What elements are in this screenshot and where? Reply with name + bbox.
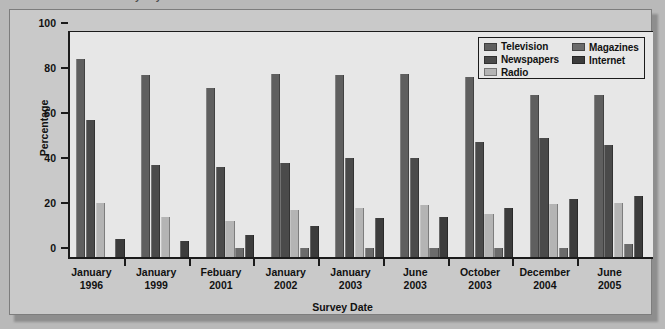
x-axis-tick-label: Febuary2001 (189, 266, 254, 291)
legend-column-left: TelevisionNewspapersRadio (484, 41, 572, 78)
bar-television-2 (206, 88, 215, 257)
legend-swatch-television (484, 43, 497, 51)
bar-television-6 (465, 77, 474, 257)
bar-newspapers-7 (539, 138, 548, 257)
x-axis-tick-label-line: January (253, 266, 318, 279)
bar-radio-4 (355, 208, 364, 258)
legend-swatch-radio (484, 68, 497, 76)
legend-label: Radio (501, 67, 528, 78)
x-axis-tick-label-line: 2003 (448, 279, 513, 292)
legend-item-radio[interactable]: Radio (484, 66, 572, 78)
bar-internet-5 (439, 217, 448, 258)
y-axis-tick (61, 157, 68, 159)
y-axis-tick (61, 112, 68, 114)
x-axis-tick (124, 259, 126, 266)
legend-label: Television (501, 41, 548, 52)
y-axis-tick-label: 100 (10, 17, 56, 29)
x-axis-tick (448, 259, 450, 266)
x-axis-tick-label-line: 1999 (124, 279, 189, 292)
y-axis-tick (61, 247, 68, 249)
bar-newspapers-5 (410, 158, 419, 257)
legend-label: Magazines (589, 42, 639, 53)
y-axis-tick (61, 67, 68, 69)
x-axis-tick (318, 259, 320, 266)
x-axis-tick-label-line: January (318, 266, 383, 279)
bar-radio-7 (549, 204, 558, 257)
bar-radio-2 (225, 221, 234, 257)
bar-internet-1 (180, 241, 189, 257)
bar-radio-6 (484, 214, 493, 257)
bar-internet-6 (504, 208, 513, 258)
bar-radio-3 (290, 210, 299, 257)
bar-magazines-6 (494, 248, 503, 257)
bar-newspapers-6 (475, 142, 484, 257)
x-axis-tick-label: January1999 (124, 266, 189, 291)
y-axis-tick-label: 0 (10, 242, 56, 254)
bar-radio-8 (614, 203, 623, 257)
x-axis-tick-label: October2003 (448, 266, 513, 291)
legend-swatch-magazines (572, 43, 585, 51)
bar-internet-0 (115, 239, 124, 257)
x-axis-tick-label-line: Febuary (189, 266, 254, 279)
bar-television-0 (76, 59, 85, 257)
bar-internet-7 (569, 199, 578, 258)
x-axis-tick-label-line: January (59, 266, 124, 279)
x-axis-tick (577, 259, 579, 266)
bar-magazines-3 (300, 248, 309, 257)
bar-magazines-8 (624, 244, 633, 258)
y-axis-tick (61, 22, 68, 24)
x-axis-tick-label: January2003 (318, 266, 383, 291)
bar-newspapers-8 (604, 145, 613, 258)
legend-swatch-newspapers (484, 56, 497, 64)
legend-column-right: MagazinesInternet (572, 41, 639, 78)
bar-radio-1 (161, 217, 170, 258)
bar-television-1 (141, 75, 150, 257)
bar-radio-5 (420, 205, 429, 257)
legend-label: Internet (589, 55, 625, 66)
bar-magazines-5 (429, 248, 438, 257)
x-axis-tick-label-line: 2001 (189, 279, 254, 292)
x-axis-tick-label-line: 2005 (577, 279, 642, 292)
bar-television-3 (271, 74, 280, 257)
figure-caption: Use of media every day (46, 0, 162, 2)
legend-item-magazines[interactable]: Magazines (572, 41, 639, 53)
x-axis-tick-label-line: December (512, 266, 577, 279)
bar-television-7 (530, 95, 539, 257)
bar-internet-3 (310, 226, 319, 258)
bar-newspapers-4 (345, 158, 354, 257)
legend-swatch-internet (572, 56, 585, 64)
bar-magazines-2 (235, 248, 244, 257)
x-axis-tick-label-line: June (577, 266, 642, 279)
x-axis-tick-label: June2005 (577, 266, 642, 291)
bar-internet-4 (375, 218, 384, 257)
bar-television-5 (400, 74, 409, 257)
x-axis-tick-label-line: 2002 (253, 279, 318, 292)
bar-magazines-7 (559, 248, 568, 257)
x-axis-tick-label-line: 2003 (318, 279, 383, 292)
bar-television-8 (594, 95, 603, 257)
x-axis-tick-label-line: 2003 (383, 279, 448, 292)
y-axis-title: Percentage (38, 68, 50, 188)
bar-internet-2 (245, 235, 254, 258)
bar-newspapers-1 (151, 165, 160, 257)
bar-internet-8 (634, 196, 643, 257)
legend-label: Newspapers (501, 54, 559, 65)
x-axis-tick-label-line: January (124, 266, 189, 279)
y-axis-tick (61, 202, 68, 204)
bar-radio-0 (96, 203, 105, 257)
bar-newspapers-2 (216, 167, 225, 257)
x-axis-tick-label: June2003 (383, 266, 448, 291)
x-axis-tick (383, 259, 385, 266)
x-axis-tick (253, 259, 255, 266)
x-axis-title: Survey Date (10, 301, 665, 313)
x-axis-tick (189, 259, 191, 266)
legend-item-internet[interactable]: Internet (572, 54, 639, 66)
bar-television-4 (335, 75, 344, 257)
legend-item-newspapers[interactable]: Newspapers (484, 54, 572, 66)
x-axis-tick-label: January1996 (59, 266, 124, 291)
legend-item-television[interactable]: Television (484, 41, 572, 53)
bar-magazines-4 (365, 248, 374, 257)
x-axis-tick-label-line: October (448, 266, 513, 279)
legend: TelevisionNewspapersRadio MagazinesInter… (478, 37, 645, 79)
x-axis-tick-label-line: 1996 (59, 279, 124, 292)
